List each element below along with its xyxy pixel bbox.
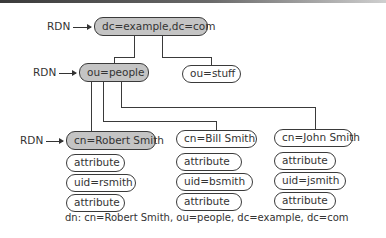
rdn-arrow-root	[73, 27, 91, 28]
entry-bill-node[interactable]: cn=Bill Smith	[176, 130, 257, 148]
attribute-uid-node[interactable]: uid=bsmith	[176, 173, 253, 191]
dn-caption: dn: cn=Robert Smith, ou=people, dc=examp…	[65, 212, 349, 223]
attribute-node[interactable]: attribute	[176, 193, 242, 211]
attribute-node[interactable]: attribute	[274, 192, 336, 210]
rdn-arrow-ou	[59, 73, 76, 74]
attribute-node[interactable]: attribute	[66, 154, 125, 172]
connector	[315, 107, 316, 129]
connector	[162, 57, 212, 58]
entry-john-node[interactable]: cn=John Smith	[274, 129, 353, 147]
connector	[134, 36, 135, 58]
attribute-uid-node[interactable]: uid=rsmith	[66, 174, 136, 192]
connector	[91, 82, 92, 131]
rdn-arrow-cn	[46, 141, 63, 142]
connector	[114, 57, 135, 58]
rdn-label-root: RDN	[47, 19, 70, 33]
attribute-uid-node[interactable]: uid=jsmith	[274, 172, 346, 190]
ou-people-node[interactable]: ou=people	[79, 63, 149, 82]
connector	[121, 82, 122, 107]
root-node[interactable]: dc=example,dc=com	[94, 17, 208, 36]
connector	[103, 82, 104, 121]
connector	[216, 121, 217, 130]
entry-robert-node[interactable]: cn=Robert Smith	[66, 131, 156, 150]
connector	[121, 107, 316, 108]
attribute-node[interactable]: attribute	[66, 194, 125, 212]
rdn-label-cn: RDN	[20, 133, 43, 147]
rdn-label-ou: RDN	[33, 65, 56, 79]
attribute-node[interactable]: attribute	[176, 153, 242, 171]
connector	[162, 36, 163, 58]
connector	[211, 57, 212, 65]
top-border	[0, 0, 386, 3]
attribute-node[interactable]: attribute	[274, 152, 336, 170]
connector	[103, 121, 217, 122]
ou-stuff-node[interactable]: ou=stuff	[182, 65, 241, 83]
